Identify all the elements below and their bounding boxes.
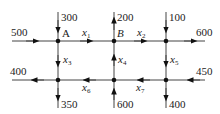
node-a [56, 39, 61, 44]
var-x4: x4 [117, 53, 127, 67]
var-x7: x7 [135, 81, 145, 95]
label-600-out: 600 [196, 26, 213, 38]
label-400-left: 400 [10, 65, 27, 77]
label-500: 500 [11, 26, 28, 38]
label-600-in: 600 [117, 98, 134, 110]
flow-network-diagram: 500 300 200 100 600 400 350 600 450 400 … [0, 0, 220, 114]
node-f [164, 78, 169, 83]
var-x6: x6 [81, 81, 91, 95]
node-d [56, 78, 61, 83]
var-x5: x5 [169, 53, 179, 67]
node-b [112, 39, 117, 44]
label-100: 100 [169, 11, 186, 23]
label-400-bottom: 400 [169, 98, 186, 110]
var-x3: x3 [62, 53, 72, 67]
node-e [112, 78, 117, 83]
node-label-a: A [62, 27, 70, 39]
label-350: 350 [61, 98, 78, 110]
label-450: 450 [196, 65, 213, 77]
node-c [164, 39, 169, 44]
label-300: 300 [61, 11, 78, 23]
var-x2: x2 [136, 26, 146, 40]
var-x1: x1 [81, 26, 91, 40]
node-label-b: B [117, 27, 124, 39]
label-200: 200 [117, 11, 134, 23]
